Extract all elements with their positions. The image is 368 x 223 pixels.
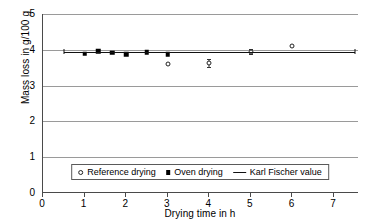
y-tick-label: 3 xyxy=(5,81,35,91)
x-tick-mark xyxy=(84,193,85,197)
legend-item-oven-drying: Oven drying xyxy=(166,167,223,177)
x-tick-label: 7 xyxy=(323,199,343,209)
y-tick-label: 1 xyxy=(5,152,35,162)
legend-label: Reference drying xyxy=(87,167,156,177)
x-tick-label: 2 xyxy=(115,199,135,209)
x-tick-mark xyxy=(125,193,126,197)
x-tick-mark xyxy=(250,193,251,197)
x-tick-label: 0 xyxy=(32,199,52,209)
x-tick-mark xyxy=(208,193,209,197)
y-tick-label: 0 xyxy=(5,188,35,198)
x-tick-label: 5 xyxy=(240,199,260,209)
x-tick-label: 1 xyxy=(74,199,94,209)
gridline-y xyxy=(43,14,358,15)
x-axis-title: Drying time in h xyxy=(42,208,358,219)
x-tick-mark xyxy=(333,193,334,197)
x-tick-mark xyxy=(291,193,292,197)
karl-fischer-line xyxy=(64,52,355,53)
legend-label: Oven drying xyxy=(174,167,223,177)
data-point-oven-drying xyxy=(165,52,170,57)
line-icon xyxy=(233,172,246,173)
gridline-y xyxy=(43,157,358,158)
y-tick-label: 4 xyxy=(5,45,35,55)
karl-fischer-error-cap xyxy=(354,49,355,55)
data-point-reference-drying xyxy=(290,43,295,48)
x-tick-label: 4 xyxy=(198,199,218,209)
chart-legend: Reference drying Oven drying Karl Fische… xyxy=(71,164,329,180)
karl-fischer-error-cap xyxy=(63,49,64,55)
y-tick-label: 2 xyxy=(5,116,35,126)
x-tick-label: 3 xyxy=(157,199,177,209)
chart-figure: Mass loss in g/100 g Drying time in h Re… xyxy=(0,0,368,223)
error-bar-cap xyxy=(207,67,211,68)
x-tick-mark xyxy=(167,193,168,197)
gridline-y xyxy=(43,86,358,87)
y-tick-label: 5 xyxy=(5,9,35,19)
legend-item-karl-fischer-value: Karl Fischer value xyxy=(233,167,322,177)
data-point-reference-drying xyxy=(207,61,212,66)
filled-square-icon xyxy=(166,170,171,175)
open-circle-icon xyxy=(78,170,83,175)
x-tick-mark xyxy=(42,193,43,197)
x-tick-label: 6 xyxy=(281,199,301,209)
legend-item-reference-drying: Reference drying xyxy=(78,167,156,177)
error-bar-cap xyxy=(249,54,253,55)
gridline-y xyxy=(43,121,358,122)
legend-label: Karl Fischer value xyxy=(250,167,322,177)
data-point-reference-drying xyxy=(165,62,170,67)
